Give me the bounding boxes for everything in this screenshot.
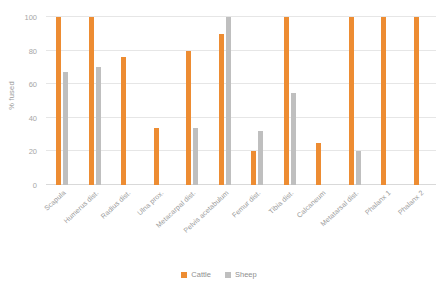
bar-sheep[interactable] (291, 93, 296, 185)
bar-chart: % fused 020406080100 ScapulaHumerus dist… (0, 0, 438, 285)
bar-cattle[interactable] (251, 151, 256, 185)
y-tick-label-20: 20 (29, 147, 37, 156)
x-label-slot: Phalanx 1 (371, 187, 404, 249)
chart-legend: CattleSheep (0, 270, 438, 279)
bar-group (241, 17, 274, 185)
bar-group (404, 17, 437, 185)
legend-item[interactable]: Sheep (225, 270, 257, 279)
y-tick-label-40: 40 (29, 113, 37, 122)
y-tick-label-100: 100 (24, 13, 37, 22)
bar-group (176, 17, 209, 185)
bar-cattle[interactable] (89, 17, 94, 185)
bar-cattle[interactable] (56, 17, 61, 185)
bar-cattle[interactable] (316, 143, 321, 185)
bar-cattle[interactable] (154, 128, 159, 185)
x-axis-tick-labels: ScapulaHumerus dist.Radius dist.Ulna pro… (46, 187, 436, 249)
bar-sheep[interactable] (356, 151, 361, 185)
bar-group (371, 17, 404, 185)
y-axis-tick-labels: 020406080100 (0, 17, 42, 185)
bar-cattle[interactable] (349, 17, 354, 185)
bars-layer (46, 17, 436, 185)
bar-group (46, 17, 79, 185)
legend-label: Cattle (191, 270, 211, 279)
legend-swatch-cattle (181, 272, 187, 278)
y-tick-label-60: 60 (29, 80, 37, 89)
bar-sheep[interactable] (193, 128, 198, 185)
x-label-slot: Metatarsal dist. (339, 187, 372, 249)
legend-swatch-sheep (225, 272, 231, 278)
bar-sheep[interactable] (96, 67, 101, 185)
bar-group (111, 17, 144, 185)
bar-cattle[interactable] (414, 17, 419, 185)
bar-group (144, 17, 177, 185)
bar-group (339, 17, 372, 185)
bar-group (209, 17, 242, 185)
x-label-slot: Phalanx 2 (404, 187, 437, 249)
bar-group (79, 17, 112, 185)
x-label-slot: Femur dist. (241, 187, 274, 249)
plot-area (46, 17, 436, 185)
x-label-slot: Radius dist. (111, 187, 144, 249)
bar-cattle[interactable] (121, 57, 126, 185)
bar-sheep[interactable] (226, 17, 231, 185)
y-tick-label-0: 0 (33, 181, 37, 190)
bar-cattle[interactable] (284, 17, 289, 185)
y-tick-label-80: 80 (29, 46, 37, 55)
bar-cattle[interactable] (381, 17, 386, 185)
bar-cattle[interactable] (219, 34, 224, 185)
legend-label: Sheep (235, 270, 257, 279)
bar-group (306, 17, 339, 185)
legend-item[interactable]: Cattle (181, 270, 211, 279)
bar-group (274, 17, 307, 185)
bar-sheep[interactable] (63, 72, 68, 185)
bar-sheep[interactable] (258, 131, 263, 185)
x-tick-label: Scapula (43, 189, 67, 212)
bar-cattle[interactable] (186, 51, 191, 185)
